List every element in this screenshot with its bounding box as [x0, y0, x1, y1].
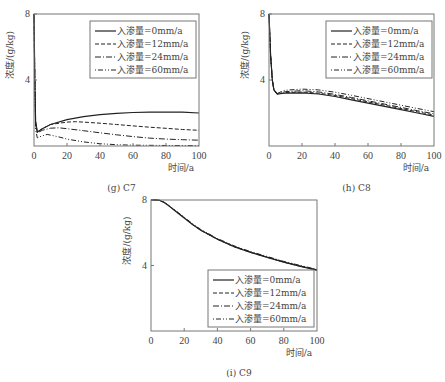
legend-label: 入渗量=0mm/a: [235, 274, 301, 285]
legend-label: 入渗量=24mm/a: [117, 51, 189, 62]
legend: 入渗量=0mm/a入渗量=12mm/a入渗量=24mm/a入渗量=60mm/a: [326, 21, 432, 78]
legend: 入渗量=0mm/a入渗量=12mm/a入渗量=24mm/a入渗量=60mm/a: [208, 270, 314, 327]
legend-label: 入渗量=0mm/a: [353, 25, 419, 36]
chart-h-c8: 02040608010048时间/a浓度/(g/kg)(h) C8入渗量=0mm…: [239, 8, 442, 193]
x-tick-label: 40: [330, 150, 340, 161]
legend-label: 入渗量=24mm/a: [235, 300, 307, 311]
y-tick-label: 8: [25, 8, 30, 19]
y-tick-label: 8: [142, 194, 147, 205]
x-axis-label: 时间/a: [168, 162, 195, 173]
y-axis-label: 浓度/(g/kg): [4, 31, 15, 79]
y-tick-label: 4: [25, 74, 30, 85]
legend: 入渗量=0mm/a入渗量=12mm/a入渗量=24mm/a入渗量=60mm/a: [90, 21, 196, 78]
x-tick-label: 60: [246, 335, 256, 346]
x-tick-label: 100: [192, 150, 207, 161]
legend-label: 入渗量=60mm/a: [117, 64, 189, 75]
chart-i-c9: 02040608010048时间/a浓度/(g/kg)(i) C9入渗量=0mm…: [121, 194, 325, 378]
x-axis-label: 时间/a: [286, 347, 313, 358]
chart-g-c7: 02040608010048时间/a浓度/(g/kg)(g) C7入渗量=0mm…: [4, 8, 207, 193]
series-line: [151, 200, 317, 270]
x-tick-label: 40: [212, 335, 222, 346]
chart-caption: (h) C8: [342, 183, 371, 193]
x-tick-label: 60: [128, 150, 138, 161]
chart-caption: (g) C7: [107, 183, 136, 193]
legend-label: 入渗量=60mm/a: [235, 313, 307, 324]
x-tick-label: 80: [161, 150, 171, 161]
series-line: [151, 200, 317, 269]
x-axis-label: 时间/a: [403, 162, 430, 173]
legend-label: 入渗量=0mm/a: [117, 25, 183, 36]
legend-label: 入渗量=12mm/a: [235, 287, 307, 298]
y-tick-label: 4: [142, 260, 147, 271]
x-tick-label: 100: [310, 335, 325, 346]
y-tick-label: 4: [260, 74, 265, 85]
x-tick-label: 100: [427, 150, 442, 161]
x-tick-label: 20: [62, 150, 72, 161]
x-tick-label: 0: [32, 150, 37, 161]
x-tick-label: 0: [149, 335, 154, 346]
legend-label: 入渗量=12mm/a: [117, 38, 189, 49]
y-axis-label: 浓度/(g/kg): [239, 31, 250, 79]
figure: 02040608010048时间/a浓度/(g/kg)(g) C7入渗量=0mm…: [0, 0, 445, 382]
y-tick-label: 8: [260, 8, 265, 19]
y-axis-label: 浓度/(g/kg): [121, 216, 132, 264]
x-tick-label: 80: [396, 150, 406, 161]
legend-label: 入渗量=24mm/a: [353, 51, 425, 62]
x-tick-label: 0: [267, 150, 272, 161]
x-tick-label: 60: [363, 150, 373, 161]
legend-label: 入渗量=12mm/a: [353, 38, 425, 49]
x-tick-label: 80: [279, 335, 289, 346]
x-tick-label: 20: [179, 335, 189, 346]
chart-caption: (i) C9: [226, 368, 252, 378]
x-tick-label: 20: [297, 150, 307, 161]
x-tick-label: 40: [95, 150, 105, 161]
legend-label: 入渗量=60mm/a: [353, 64, 425, 75]
